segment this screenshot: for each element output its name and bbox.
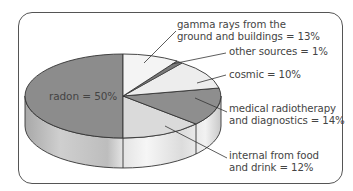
leader-other [172,53,226,64]
label-other-sources: other sources = 1% [229,46,328,59]
label-gamma-line1: gamma rays from the [177,19,286,32]
label-cosmic: cosmic = 10% [229,69,301,82]
label-medical-line2: and diagnostics = 14% [229,115,345,128]
label-internal-line2: and drink = 12% [229,162,313,175]
label-gamma-line2: ground and buildings = 13% [177,31,320,44]
label-radon: radon = 50% [49,90,117,103]
label-internal-line1: internal from food [229,150,319,163]
label-medical-line1: medical radiotherapy [229,103,336,116]
